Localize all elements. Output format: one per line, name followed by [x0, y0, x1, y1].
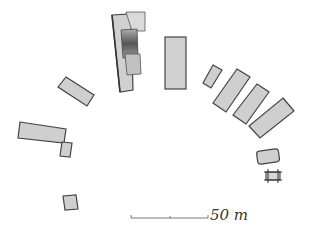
- structure-west-1: [58, 77, 94, 106]
- structure-east-1: [203, 65, 222, 88]
- structure-west-3: [60, 142, 72, 157]
- structure-east-gate: [264, 169, 282, 183]
- site-plan: [0, 0, 313, 236]
- structure-large-complex: [112, 12, 145, 92]
- structure-southwest: [63, 195, 78, 210]
- structure-east-small: [256, 149, 280, 165]
- scale-bar: [131, 215, 208, 218]
- structure-tall-block: [165, 37, 186, 89]
- structure-west-2: [18, 122, 66, 143]
- scale-bar-label: 50 m: [210, 206, 248, 224]
